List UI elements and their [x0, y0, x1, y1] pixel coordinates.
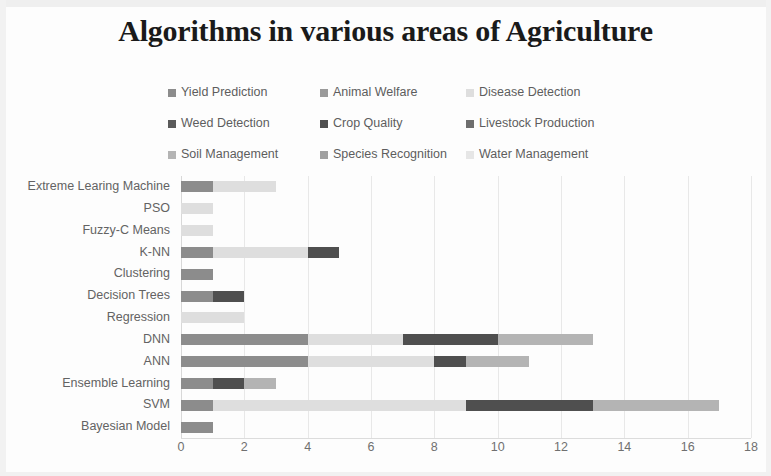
bar-segment[interactable] — [181, 422, 213, 433]
y-axis-tick-label: DNN — [0, 329, 170, 351]
bar-track — [181, 312, 751, 323]
x-axis-tick-label: 12 — [554, 440, 568, 454]
legend-item[interactable]: Disease Detection — [466, 86, 638, 99]
bar-track — [181, 247, 751, 258]
legend-item[interactable]: Animal Welfare — [320, 86, 466, 99]
legend-item[interactable]: Species Recognition — [320, 148, 466, 161]
scan-edge-top — [0, 0, 771, 7]
bar-row[interactable] — [181, 416, 751, 438]
legend-swatch-icon — [466, 151, 474, 159]
bar-segment[interactable] — [213, 291, 245, 302]
y-axis-tick-label: SVM — [0, 394, 170, 416]
bar-segment[interactable] — [181, 378, 213, 389]
bar-segment[interactable] — [181, 181, 213, 192]
legend-swatch-icon — [320, 120, 328, 128]
bar-row[interactable] — [181, 373, 751, 395]
y-axis-tick-label: K-NN — [0, 242, 170, 264]
bar-segment[interactable] — [403, 334, 498, 345]
bar-segment[interactable] — [181, 356, 308, 367]
bar-segment[interactable] — [181, 247, 213, 258]
legend-item-label: Crop Quality — [333, 117, 402, 130]
bar-segment[interactable] — [466, 400, 593, 411]
legend-item-label: Animal Welfare — [333, 86, 418, 99]
bar-segment[interactable] — [213, 400, 466, 411]
bar-row[interactable] — [181, 351, 751, 373]
y-axis-tick-label: Extreme Learing Machine — [0, 176, 170, 198]
legend-swatch-icon — [320, 151, 328, 159]
x-axis-tick-label: 4 — [304, 440, 311, 454]
legend-item-label: Soil Management — [181, 148, 278, 161]
bar-segment[interactable] — [213, 247, 308, 258]
bar-row[interactable] — [181, 263, 751, 285]
bar-segment[interactable] — [213, 181, 276, 192]
scan-edge-right — [766, 0, 771, 476]
legend-item[interactable]: Yield Prediction — [168, 86, 320, 99]
bar-track — [181, 203, 751, 214]
bar-row[interactable] — [181, 220, 751, 242]
gridline — [751, 176, 752, 438]
legend-item-label: Species Recognition — [333, 148, 447, 161]
bar-segment[interactable] — [593, 400, 720, 411]
chart-title: Algorithms in various areas of Agricultu… — [0, 14, 771, 48]
bar-row[interactable] — [181, 198, 751, 220]
chart-legend: Yield PredictionAnimal WelfareDisease De… — [168, 77, 638, 170]
legend-item-label: Disease Detection — [479, 86, 580, 99]
bar-segment[interactable] — [308, 334, 403, 345]
bar-segment[interactable] — [181, 203, 213, 214]
x-axis-tick-label: 16 — [681, 440, 695, 454]
legend-swatch-icon — [168, 151, 176, 159]
plot-area — [181, 176, 751, 438]
legend-item[interactable]: Water Management — [466, 148, 638, 161]
y-axis-tick-label: ANN — [0, 351, 170, 373]
x-axis-tick-label: 0 — [178, 440, 185, 454]
bar-row[interactable] — [181, 242, 751, 264]
legend-item-label: Yield Prediction — [181, 86, 267, 99]
bar-segment[interactable] — [181, 400, 213, 411]
bar-segment[interactable] — [213, 378, 245, 389]
bar-segment[interactable] — [181, 334, 308, 345]
y-axis-tick-label: Decision Trees — [0, 285, 170, 307]
bar-track — [181, 422, 751, 433]
bar-row[interactable] — [181, 307, 751, 329]
bar-row[interactable] — [181, 285, 751, 307]
legend-swatch-icon — [168, 120, 176, 128]
y-axis-tick-label: Fuzzy-C Means — [0, 220, 170, 242]
y-axis-labels: Extreme Learing MachinePSOFuzzy-C MeansK… — [0, 176, 176, 438]
legend-item-label: Water Management — [479, 148, 588, 161]
bar-segment[interactable] — [308, 356, 435, 367]
y-axis-tick-label: Clustering — [0, 263, 170, 285]
legend-item-label: Weed Detection — [181, 117, 270, 130]
legend-swatch-icon — [320, 89, 328, 97]
bar-segment[interactable] — [434, 356, 466, 367]
bar-segment[interactable] — [181, 269, 213, 280]
bar-segment[interactable] — [466, 356, 529, 367]
bar-track — [181, 269, 751, 280]
bar-segment[interactable] — [181, 225, 213, 236]
bar-segment[interactable] — [308, 247, 340, 258]
bar-track — [181, 225, 751, 236]
legend-swatch-icon — [168, 89, 176, 97]
bar-segment[interactable] — [181, 312, 244, 323]
bar-segment[interactable] — [498, 334, 593, 345]
legend-item[interactable]: Soil Management — [168, 148, 320, 161]
bar-track — [181, 181, 751, 192]
bar-row[interactable] — [181, 176, 751, 198]
y-axis-tick-label: PSO — [0, 198, 170, 220]
bar-segment[interactable] — [181, 291, 213, 302]
legend-swatch-icon — [466, 89, 474, 97]
bar-row[interactable] — [181, 394, 751, 416]
bar-track — [181, 334, 751, 345]
bar-rows — [181, 176, 751, 438]
legend-item[interactable]: Crop Quality — [320, 117, 466, 130]
bar-track — [181, 356, 751, 367]
bar-segment[interactable] — [244, 378, 276, 389]
legend-item[interactable]: Livestock Production — [466, 117, 638, 130]
scan-edge-bottom — [0, 472, 771, 476]
legend-item[interactable]: Weed Detection — [168, 117, 320, 130]
bar-row[interactable] — [181, 329, 751, 351]
x-axis-tick-label: 10 — [491, 440, 505, 454]
bar-track — [181, 291, 751, 302]
x-axis-tick-label: 2 — [241, 440, 248, 454]
x-axis-tick-label: 8 — [431, 440, 438, 454]
bar-track — [181, 400, 751, 411]
